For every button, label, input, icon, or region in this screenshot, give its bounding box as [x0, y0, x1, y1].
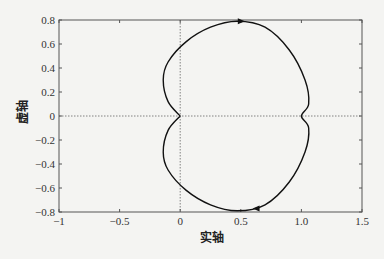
nyquist-chart: −1−0.500.51.01.5 0.80.60.40.20−0.2−0.4−0… — [0, 0, 384, 259]
arrow-icon — [253, 205, 260, 211]
x-axis-ticks: −1−0.500.51.01.5 — [53, 20, 369, 227]
y-tick-label: 0.8 — [41, 14, 55, 26]
y-tick-label: −0.6 — [35, 182, 55, 194]
x-tick-label: 0 — [177, 215, 183, 227]
y-axis-label: 虚轴 — [15, 100, 30, 124]
y-tick-label: 0 — [50, 110, 56, 122]
x-tick-label: 1.5 — [355, 215, 369, 227]
reference-lines — [59, 20, 362, 212]
y-tick-label: 0.6 — [41, 38, 55, 50]
x-tick-label: −0.5 — [110, 215, 130, 227]
y-tick-label: −0.4 — [35, 158, 55, 170]
x-axis-label: 实轴 — [200, 230, 224, 245]
y-tick-label: 0.2 — [41, 86, 55, 98]
y-tick-label: 0.4 — [41, 62, 55, 74]
y-tick-label: −0.2 — [35, 134, 55, 146]
x-tick-label: 0.5 — [234, 215, 248, 227]
x-tick-label: 1.0 — [295, 215, 309, 227]
arrow-icon — [238, 18, 245, 24]
y-tick-label: −0.8 — [35, 206, 55, 218]
direction-arrow-icon — [238, 18, 260, 211]
